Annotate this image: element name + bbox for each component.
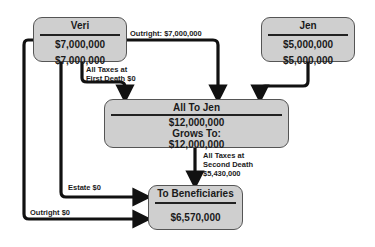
edge-label-second-death-taxes-3: $5,430,000 — [203, 169, 241, 178]
node-value: $12,000,000 — [105, 117, 288, 128]
node-value: $5,000,000 — [262, 55, 354, 67]
divider — [40, 34, 120, 36]
divider — [268, 34, 348, 36]
grows-label: Grows To: — [105, 128, 288, 139]
node-value: $6,570,000 — [149, 212, 242, 224]
divider — [111, 114, 282, 116]
edge-label-second-death-taxes-2: Second Death — [203, 160, 253, 169]
node-veri: Veri $7,000,000 $7,000,000 — [33, 17, 127, 62]
node-title: To Beneficiaries — [149, 186, 242, 200]
edge-label-first-death-taxes-1: All Taxes at — [86, 65, 127, 74]
node-all-to-jen: All To Jen $12,000,000 Grows To: $12,000… — [104, 99, 289, 148]
node-title: All To Jen — [105, 100, 288, 113]
node-value: $12,000,000 — [105, 139, 288, 150]
node-title: Jen — [262, 18, 354, 32]
divider — [155, 202, 236, 204]
edge-label-second-death-taxes-1: All Taxes at — [203, 151, 244, 160]
node-beneficiaries: To Beneficiaries $6,570,000 — [148, 185, 243, 230]
edge-label-estate: Estate $0 — [68, 183, 101, 192]
node-jen: Jen $5,000,000 $5,000,000 — [261, 17, 355, 62]
node-title: Veri — [34, 18, 126, 32]
edge-label-outright-to-jen: Outright: $7,000,000 — [130, 29, 202, 38]
edge-label-first-death-taxes-2: First Death $0 — [86, 74, 136, 83]
edge-label-outright-beneficiaries: Outright $0 — [30, 208, 70, 217]
node-value: $7,000,000 — [34, 39, 126, 51]
node-value: $5,000,000 — [262, 39, 354, 51]
